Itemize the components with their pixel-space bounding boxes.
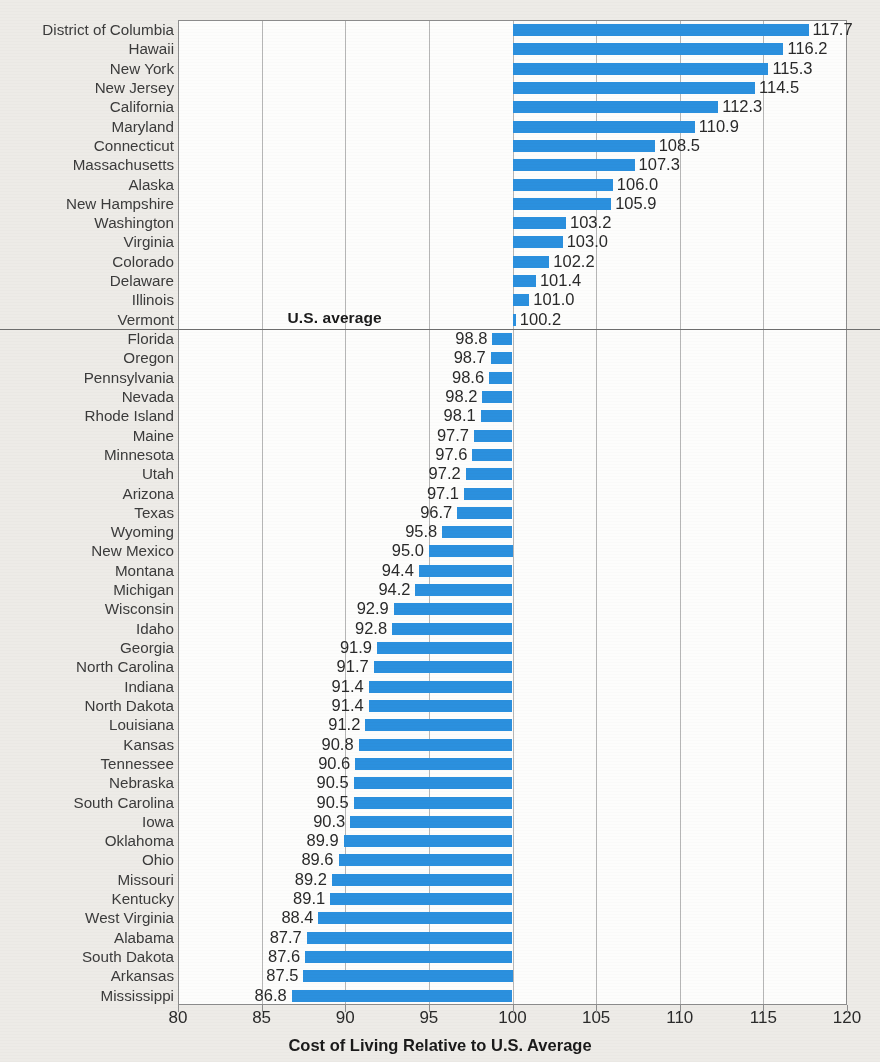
bar-value-label: 117.7	[813, 20, 853, 39]
bar-row: Florida98.8	[0, 329, 880, 348]
bar-row: California112.3	[0, 97, 880, 116]
bar	[392, 623, 512, 635]
category-label: Wisconsin	[105, 599, 174, 618]
bar-row: West Virginia88.4	[0, 908, 880, 927]
bar-row: Missouri89.2	[0, 870, 880, 889]
bar-row: Maryland110.9	[0, 117, 880, 136]
bar-value-label: 97.1	[427, 484, 459, 503]
bar-row: Minnesota97.6	[0, 445, 880, 464]
bar	[513, 159, 635, 171]
bar-row: Utah97.2	[0, 464, 880, 483]
category-label: Arkansas	[111, 966, 174, 985]
category-label: Nebraska	[109, 773, 174, 792]
bar	[513, 140, 655, 152]
bar-row: Michigan94.2	[0, 580, 880, 599]
bar	[481, 410, 513, 422]
bar-value-label: 91.7	[337, 657, 369, 676]
bar	[513, 314, 516, 326]
bar	[513, 63, 769, 75]
category-label: New Jersey	[95, 78, 174, 97]
category-label: Delaware	[110, 271, 174, 290]
category-label: New Hampshire	[66, 194, 174, 213]
bar	[513, 275, 536, 287]
bar-value-label: 89.2	[295, 870, 327, 889]
x-tickmark-105	[596, 1005, 597, 1012]
bar-value-label: 90.5	[317, 793, 349, 812]
category-label: Washington	[94, 213, 174, 232]
category-label: Kentucky	[112, 889, 174, 908]
bar-row: New Mexico95.0	[0, 541, 880, 560]
bar-row: Rhode Island98.1	[0, 406, 880, 425]
bar-row: Alaska106.0	[0, 175, 880, 194]
category-label: Colorado	[112, 252, 174, 271]
bar-row: District of Columbia117.7	[0, 20, 880, 39]
x-tickmark-90	[345, 1005, 346, 1012]
category-label: Alabama	[114, 928, 174, 947]
x-tickmark-85	[262, 1005, 263, 1012]
category-label: Texas	[134, 503, 174, 522]
cost-of-living-bar-chart: District of Columbia117.7Hawaii116.2New …	[0, 0, 880, 1062]
bar-row: Colorado102.2	[0, 252, 880, 271]
category-label: Illinois	[132, 290, 174, 309]
bar	[318, 912, 512, 924]
category-label: Idaho	[136, 619, 174, 638]
bar-value-label: 91.9	[340, 638, 372, 657]
bar-value-label: 116.2	[787, 39, 827, 58]
bar	[339, 854, 513, 866]
us-average-divider	[0, 329, 880, 330]
bar-value-label: 89.9	[306, 831, 338, 850]
bar	[359, 739, 513, 751]
bar	[513, 294, 530, 306]
category-label: Pennsylvania	[84, 368, 174, 387]
bar-value-label: 94.4	[382, 561, 414, 580]
x-tickmark-100	[513, 1005, 514, 1012]
category-label: Vermont	[117, 310, 174, 329]
bar-row: New Hampshire105.9	[0, 194, 880, 213]
bar	[482, 391, 512, 403]
bar-row: Nevada98.2	[0, 387, 880, 406]
bar-value-label: 92.8	[355, 619, 387, 638]
bar-row: New Jersey114.5	[0, 78, 880, 97]
bar-row: Georgia91.9	[0, 638, 880, 657]
category-label: Georgia	[120, 638, 174, 657]
bar-row: Montana94.4	[0, 561, 880, 580]
bar-row: Oregon98.7	[0, 348, 880, 367]
bar	[365, 719, 512, 731]
bar-value-label: 90.5	[317, 773, 349, 792]
bar-row: Ohio89.6	[0, 850, 880, 869]
bar-value-label: 96.7	[420, 503, 452, 522]
bar	[513, 101, 719, 113]
bar	[394, 603, 513, 615]
bar-value-label: 89.1	[293, 889, 325, 908]
bar-value-label: 87.7	[270, 928, 302, 947]
bar	[489, 372, 512, 384]
bar	[354, 777, 513, 789]
category-label: Michigan	[113, 580, 174, 599]
bar-row: Arizona97.1	[0, 484, 880, 503]
us-average-label: U.S. average	[288, 309, 382, 327]
bar	[369, 700, 513, 712]
bar-value-label: 98.1	[444, 406, 476, 425]
category-label: Virginia	[124, 232, 174, 251]
bar	[474, 430, 512, 442]
category-label: Florida	[128, 329, 174, 348]
bar-value-label: 88.4	[281, 908, 313, 927]
category-label: Ohio	[142, 850, 174, 869]
bar-value-label: 103.0	[567, 232, 608, 251]
category-label: Louisiana	[109, 715, 174, 734]
category-label: South Carolina	[74, 793, 174, 812]
bar-value-label: 91.4	[332, 696, 364, 715]
bar-value-label: 100.2	[520, 310, 561, 329]
category-label: Massachusetts	[73, 155, 174, 174]
bar-row: Illinois101.0	[0, 290, 880, 309]
x-tickmark-115	[763, 1005, 764, 1012]
category-label: Wyoming	[111, 522, 174, 541]
bar-value-label: 98.8	[455, 329, 487, 348]
bar-value-label: 97.7	[437, 426, 469, 445]
category-label: Nevada	[122, 387, 174, 406]
bar-value-label: 106.0	[617, 175, 658, 194]
bar-row: Hawaii116.2	[0, 39, 880, 58]
bar-value-label: 101.4	[540, 271, 581, 290]
bar-row: North Carolina91.7	[0, 657, 880, 676]
category-label: California	[110, 97, 174, 116]
